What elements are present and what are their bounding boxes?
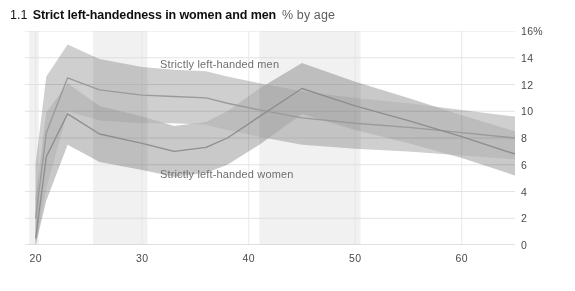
x-axis-tick-label: 60 [456, 252, 468, 264]
x-axis-tick-label: 30 [136, 252, 148, 264]
y-axis-tick-label: 2 [521, 213, 527, 224]
chart-subtitle: % by age [282, 8, 335, 22]
y-axis-tick-label: 6 [521, 160, 527, 171]
y-axis-tick-label: 4 [521, 186, 527, 197]
x-axis-tick-label: 20 [30, 252, 42, 264]
y-axis-tick-label: 0 [521, 240, 527, 251]
x-axis-tick-label: 50 [349, 252, 361, 264]
series-label-men: Strictly left-handed men [160, 58, 279, 70]
x-axis-labels: 2030405060 [0, 252, 575, 272]
chart-container: 1.1Strict left-handedness in women and m… [0, 0, 575, 291]
y-axis-tick-label: 14 [521, 53, 533, 64]
page-title: Strict left-handedness in women and men [33, 8, 276, 22]
y-axis-tick-label: 12 [521, 79, 533, 90]
y-axis-labels: 0246810121416% [521, 31, 575, 245]
y-axis-tick-label: 10 [521, 106, 533, 117]
x-axis-tick-label: 40 [243, 252, 255, 264]
chart-number: 1.1 [10, 8, 28, 22]
chart-title-bar: 1.1Strict left-handedness in women and m… [10, 5, 575, 25]
y-axis-tick-label: 8 [521, 133, 527, 144]
series-label-women: Strictly left-handed women [160, 168, 294, 180]
y-axis-tick-label: 16% [521, 26, 543, 37]
